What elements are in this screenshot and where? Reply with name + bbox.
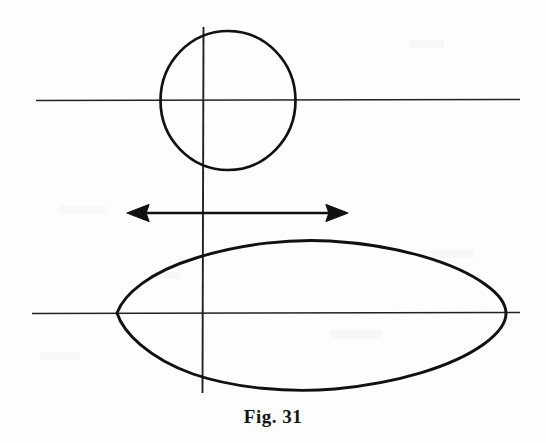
lower-horizontal-axis-line <box>32 313 520 314</box>
vertical-axis-line <box>203 27 204 393</box>
figure-caption: Fig. 31 <box>0 406 546 428</box>
figure-page: Fig. 31 <box>0 0 546 443</box>
paper-background <box>0 0 546 443</box>
figure-drawing-canvas <box>0 0 546 443</box>
upper-horizontal-axis-line <box>36 100 520 101</box>
